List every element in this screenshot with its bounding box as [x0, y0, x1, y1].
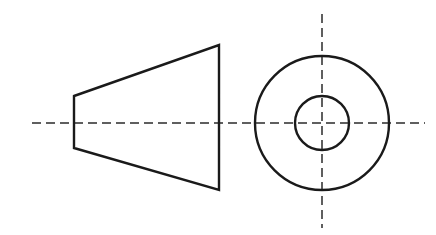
technical-drawing-canvas	[0, 0, 436, 235]
drawing-svg	[0, 0, 436, 235]
